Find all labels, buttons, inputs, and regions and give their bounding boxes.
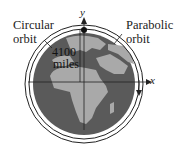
circular-orbit-label-line1: Circular [13,19,54,31]
circular-orbit-leader [44,40,52,48]
orbit-direction-arrow-icon [136,90,142,96]
y-axis-label: y [80,6,85,18]
parabolic-orbit-label-line2: orbit [126,33,150,45]
distance-unit: miles [53,58,79,70]
y-axis-arrow-icon [81,17,87,24]
satellite-dot [81,27,87,33]
parabolic-orbit-label-line1: Parabolic [126,19,173,31]
x-axis-label: x [150,74,155,86]
orbit-diagram: Circular orbit Parabolic orbit 4100 mile… [0,0,179,144]
circular-orbit-label-line2: orbit [13,33,37,45]
